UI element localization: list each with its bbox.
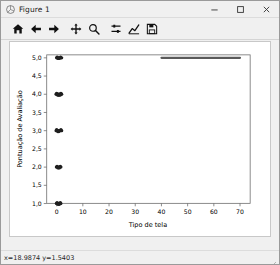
resize-grip[interactable] (268, 254, 277, 263)
y-tick-label: 3,5 (32, 109, 42, 116)
arrow-right-icon[interactable] (45, 20, 62, 38)
cursor-coordinates: x=18.9874 y=1.5403 (4, 254, 74, 262)
y-tick-label: 1,5 (32, 182, 42, 189)
magnifier-icon[interactable] (85, 20, 102, 38)
x-tick-label: 30 (131, 208, 139, 215)
x-tick-label: 10 (79, 208, 87, 215)
canvas-container: 5,0 4,5 4,0 3,5 (1, 40, 279, 250)
y-tick-2_0: 2,0 (32, 163, 47, 170)
x-tick-label: 70 (236, 208, 244, 215)
toolbar-gap (63, 20, 66, 38)
x-tick-70: 70 (236, 203, 244, 215)
line-chart-icon[interactable] (125, 20, 142, 38)
x-tick-20: 20 (105, 203, 113, 215)
y-tick-label: 5,0 (32, 54, 42, 61)
toolbar-gap-2 (103, 20, 106, 38)
window-titlebar[interactable]: Figure 1 (1, 1, 279, 18)
x-tick-label: 60 (210, 208, 218, 215)
close-icon[interactable] (253, 1, 279, 18)
y-tick-1_5: 1,5 (32, 182, 47, 189)
y-tick-1_0: 1,0 (32, 200, 47, 207)
y-axis: 5,0 4,5 4,0 3,5 (32, 54, 47, 207)
home-icon[interactable] (9, 20, 26, 38)
cluster-rating-5 (55, 56, 63, 61)
y-tick-label: 3,0 (32, 127, 42, 134)
figure-canvas[interactable]: 5,0 4,5 4,0 3,5 (9, 41, 271, 237)
window-title: Figure 1 (19, 5, 50, 14)
y-tick-5_0: 5,0 (32, 54, 47, 61)
minimize-icon[interactable] (201, 1, 227, 18)
x-axis: 0 10 20 30 4 (55, 203, 244, 215)
scatter-plot[interactable]: 5,0 4,5 4,0 3,5 (10, 42, 270, 236)
figure-window: Figure 1 (0, 0, 280, 265)
x-tick-label: 0 (55, 208, 59, 215)
y-tick-3_0: 3,0 (32, 127, 47, 134)
x-tick-label: 50 (184, 208, 192, 215)
status-bar: x=18.9874 y=1.5403 (1, 250, 279, 264)
x-tick-60: 60 (210, 203, 218, 215)
window-controls (201, 1, 279, 17)
matplotlib-toolbar (1, 18, 279, 40)
x-tick-50: 50 (184, 203, 192, 215)
axes-frame (47, 55, 250, 203)
maximize-icon[interactable] (227, 1, 253, 18)
x-tick-30: 30 (131, 203, 139, 215)
y-tick-3_5: 3,5 (32, 109, 47, 116)
x-tick-40: 40 (158, 203, 166, 215)
y-tick-label: 2,0 (32, 163, 42, 170)
y-tick-label: 4,5 (32, 72, 42, 79)
y-tick-2_5: 2,5 (32, 145, 47, 152)
arrow-left-icon[interactable] (27, 20, 44, 38)
floppy-disk-icon[interactable] (143, 20, 160, 38)
x-tick-10: 10 (79, 203, 87, 215)
x-tick-label: 20 (105, 208, 113, 215)
y-tick-4_5: 4,5 (32, 72, 47, 79)
x-axis-label: Tipo de tela (128, 221, 168, 229)
y-tick-label: 2,5 (32, 145, 42, 152)
y-axis-label: Pontuação de Avaliação (16, 90, 24, 168)
move-cross-icon[interactable] (67, 20, 84, 38)
x-tick-label: 40 (158, 208, 166, 215)
matplotlib-icon (6, 5, 15, 14)
y-tick-label: 1,0 (32, 200, 42, 207)
sliders-icon[interactable] (107, 20, 124, 38)
y-tick-4_0: 4,0 (32, 90, 47, 97)
y-tick-label: 4,0 (32, 90, 42, 97)
